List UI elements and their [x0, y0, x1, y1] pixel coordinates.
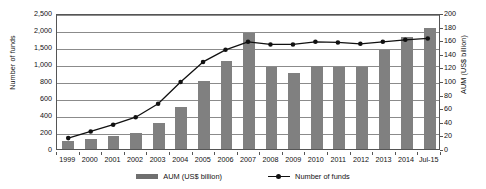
y-axis-right-tick-label: 20 [444, 132, 478, 140]
x-axis-ticks: 1999200020012002200320042005200620072008… [56, 152, 440, 166]
y-axis-right-ticks: 020406080100120140160180200 [444, 14, 480, 150]
y-axis-left-tick-label: 400 [18, 112, 52, 120]
x-axis-tick-label: 2013 [372, 155, 395, 164]
y-axis-left-tick-label: 600 [18, 95, 52, 103]
y-axis-left-tick-label: 2,000 [18, 27, 52, 35]
y-axis-left-tick-label: 200 [18, 129, 52, 137]
legend-item-number-of-funds: Number of funds [268, 172, 350, 181]
legend-bar-swatch-icon [136, 174, 158, 179]
y-axis-right-tickmark [440, 136, 443, 137]
line-marker [111, 122, 116, 127]
x-axis-tick-label: 2002 [124, 155, 147, 164]
line-marker [223, 48, 228, 53]
x-axis-tick-label: 2005 [192, 155, 215, 164]
x-axis-tick-label: 2007 [237, 155, 260, 164]
line-marker [246, 40, 251, 45]
y-axis-right-tick-label: 100 [444, 78, 478, 86]
chart-legend: AUM (US$ billion) Number of funds [0, 168, 486, 184]
legend-label-aum: AUM (US$ billion) [163, 172, 222, 181]
x-axis-tick-label: 2001 [101, 155, 124, 164]
line-marker [291, 42, 296, 47]
line-marker [66, 136, 71, 141]
x-axis-tick-label: Jul-15 [417, 155, 440, 164]
line-marker [268, 42, 273, 47]
x-axis-tick-label: 2008 [259, 155, 282, 164]
line-marker [313, 40, 318, 45]
y-axis-left-ticks: 02004006008001,0001,5002,0002,500 [14, 14, 52, 150]
line-marker [336, 40, 341, 45]
x-axis-tick-label: 2006 [214, 155, 237, 164]
plot-area [56, 14, 440, 150]
y-axis-left-tick-label: 800 [18, 78, 52, 86]
y-axis-right-tick-label: 80 [444, 92, 478, 100]
y-axis-right-tickmark [440, 96, 443, 97]
x-axis-tick-label: 2000 [79, 155, 102, 164]
line-marker [358, 42, 363, 47]
y-axis-right-tick-label: 200 [444, 10, 478, 18]
line-marker [178, 80, 183, 85]
x-axis-tick-label: 1999 [56, 155, 79, 164]
line-marker [156, 102, 161, 107]
y-axis-right-tickmark [440, 41, 443, 42]
x-axis-tick-label: 2011 [327, 155, 350, 164]
line-marker [425, 36, 430, 41]
legend-label-number-of-funds: Number of funds [295, 172, 350, 181]
legend-item-aum: AUM (US$ billion) [136, 172, 222, 181]
y-axis-right-tickmark [440, 14, 443, 15]
y-axis-right-tick-label: 180 [444, 24, 478, 32]
y-axis-right-tickmark [440, 109, 443, 110]
y-axis-right-tick-label: 60 [444, 105, 478, 113]
x-axis-tickmark [440, 152, 441, 155]
y-axis-right-tick-label: 160 [444, 37, 478, 45]
y-axis-right-tickmark [440, 55, 443, 56]
x-axis-tick-label: 2003 [146, 155, 169, 164]
y-axis-right-tickmark [440, 150, 443, 151]
y-axis-right-tickmark [440, 82, 443, 83]
line-marker [88, 129, 93, 134]
y-axis-right-tickmark [440, 28, 443, 29]
x-axis-tick-label: 2012 [350, 155, 373, 164]
x-axis-tick-label: 2004 [169, 155, 192, 164]
y-axis-right-tick-label: 40 [444, 119, 478, 127]
y-axis-left-tick-label: 0 [18, 146, 52, 154]
line-marker [201, 60, 206, 65]
line-series-number-of-funds [57, 15, 439, 149]
chart-figure: Number of funds AUM (US$ billion) 020040… [0, 0, 486, 189]
y-axis-right-tick-label: 0 [444, 146, 478, 154]
line-path [68, 38, 428, 138]
y-axis-right-tick-label: 120 [444, 64, 478, 72]
y-axis-left-tick-label: 2,500 [18, 10, 52, 18]
line-marker [403, 38, 408, 43]
y-axis-left-tick-label: 1,500 [18, 44, 52, 52]
line-marker [381, 40, 386, 45]
y-axis-right-tickmark [440, 123, 443, 124]
y-axis-right-tick-label: 140 [444, 51, 478, 59]
legend-line-marker-icon [268, 173, 290, 180]
y-axis-right-tickmark [440, 68, 443, 69]
line-marker [133, 115, 138, 120]
y-axis-left-tick-label: 1,000 [18, 61, 52, 69]
x-axis-tick-label: 2009 [282, 155, 305, 164]
x-axis-tick-label: 2014 [395, 155, 418, 164]
x-axis-tick-label: 2010 [304, 155, 327, 164]
